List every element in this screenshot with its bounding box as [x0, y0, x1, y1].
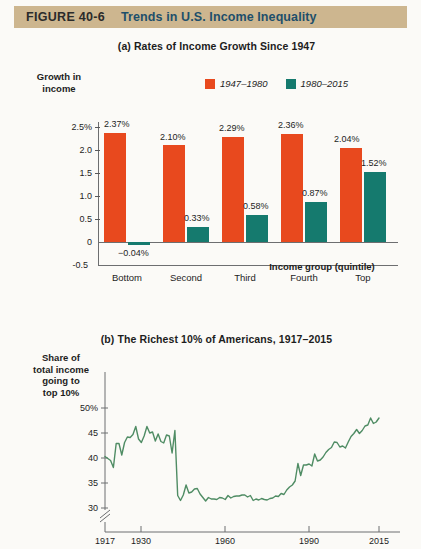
figure-number: FIGURE 40-6: [26, 10, 105, 24]
panel-a-ytick-2-0: 2.0: [58, 145, 92, 155]
panel-a-title: (a) Rates of Income Growth Since 1947: [6, 40, 421, 52]
bar-value-fourth-1947-1980: 2.36%: [278, 120, 332, 130]
bar-fourth-1980-2015: [305, 202, 327, 242]
panel-a-y-axis-line: [98, 122, 99, 265]
bar-value-bottom-1980-2015: −0.04%: [118, 248, 172, 258]
panel-b-axis-break-mark-1: [100, 514, 110, 522]
panel-a-bar-chart: Growth inincome 1947–1980 1980–2015 2.5%…: [0, 60, 421, 310]
figure-title: Trends in U.S. Income Inequality: [121, 10, 317, 24]
xtick-top: Top: [328, 272, 398, 283]
bar-second-1947-1980: [163, 145, 185, 242]
panel-a-x-axis-label: Income group (quintile): [232, 261, 412, 272]
legend-item-1947-1980: 1947–1980: [205, 78, 268, 89]
legend-swatch-icon-teal: [286, 79, 296, 89]
bar-bottom-1947-1980: [104, 133, 126, 242]
panel-a-ytick-2-5: 2.5%: [58, 122, 92, 132]
panel-a-ytick-0-5: 0.5: [58, 214, 92, 224]
panel-a-legend: 1947–1980 1980–2015: [205, 78, 348, 89]
bar-value-second-1947-1980: 2.10%: [160, 132, 214, 142]
legend-swatch-icon-orange: [205, 79, 215, 89]
bar-top-1947-1980: [340, 148, 362, 242]
panel-b-title: (b) The Richest 10% of Americans, 1917–2…: [6, 333, 421, 345]
panel-a-tickmark-1-0: [95, 196, 100, 197]
bar-third-1947-1980: [222, 137, 244, 242]
panel-b-plot-svg: [0, 350, 421, 549]
panel-a-tickmark-2-5: [95, 127, 100, 128]
figure-header-bar: FIGURE 40-6 Trends in U.S. Income Inequa…: [14, 6, 407, 28]
legend-label-1980-2015: 1980–2015: [301, 78, 349, 89]
figure-container: FIGURE 40-6 Trends in U.S. Income Inequa…: [0, 0, 421, 549]
panel-b-axis-break-mark-2: [100, 510, 110, 518]
bar-second-1980-2015: [187, 227, 209, 242]
panel-a-tickmark-2-0: [95, 150, 100, 151]
bar-value-third-1947-1980: 2.29%: [219, 123, 273, 133]
bar-bottom-1980-2015: [128, 242, 150, 245]
bar-value-top-1980-2015: 1.52%: [361, 158, 415, 168]
panel-a-ytick-neg-0-5: -0.5: [54, 260, 88, 270]
bar-third-1980-2015: [246, 215, 268, 242]
panel-a-ytick-0: 0: [58, 237, 92, 247]
bar-top-1980-2015: [364, 172, 386, 242]
bar-value-bottom-1947-1980: 2.37%: [104, 119, 158, 129]
panel-a-tickmark-1-5: [95, 173, 100, 174]
bar-value-top-1947-1980: 2.04%: [334, 134, 388, 144]
panel-a-tickmark-0-5: [95, 219, 100, 220]
panel-b-line-chart: Share oftotal incomegoing totop 10% 50% …: [0, 350, 421, 549]
bar-fourth-1947-1980: [281, 134, 303, 242]
panel-b-data-line: [105, 418, 379, 501]
legend-label-1947-1980: 1947–1980: [220, 78, 268, 89]
panel-a-y-axis-label: Growth inincome: [28, 71, 90, 94]
legend-item-1980-2015: 1980–2015: [286, 78, 349, 89]
panel-a-ytick-1-0: 1.0: [58, 191, 92, 201]
panel-a-ytick-1-5: 1.5: [58, 168, 92, 178]
